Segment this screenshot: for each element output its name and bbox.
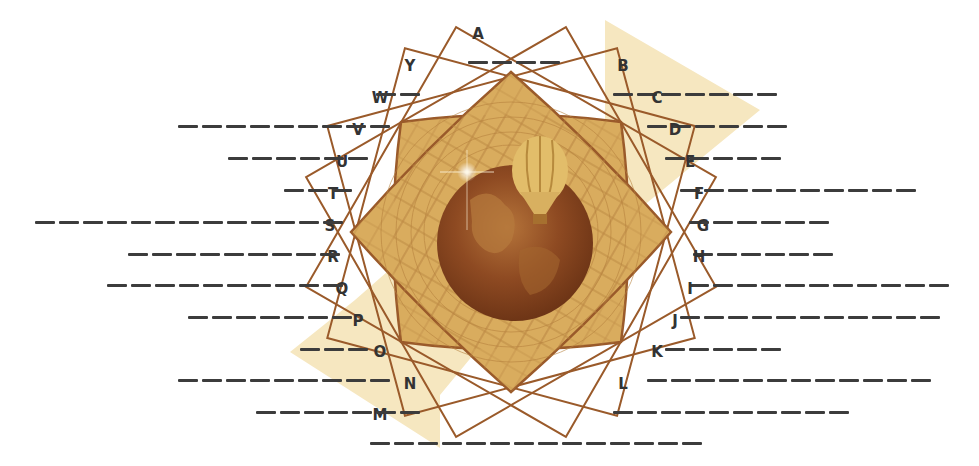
letter-slot[interactable] (400, 411, 420, 414)
letter-slots[interactable] (689, 284, 949, 287)
letter-slot[interactable] (227, 284, 247, 287)
letter-slot[interactable] (514, 442, 534, 445)
letter-slots[interactable] (178, 125, 390, 128)
letter-slot[interactable] (468, 61, 488, 64)
letter-slot[interactable] (131, 221, 151, 224)
letter-slot[interactable] (256, 411, 276, 414)
letter-slot[interactable] (839, 379, 859, 382)
letter-slot[interactable] (920, 316, 940, 319)
letter-slot[interactable] (324, 348, 344, 351)
letter-slot[interactable] (757, 411, 777, 414)
letter-slot[interactable] (709, 93, 729, 96)
letter-slot[interactable] (767, 125, 787, 128)
letter-slot[interactable] (107, 221, 127, 224)
letter-slot[interactable] (155, 221, 175, 224)
letter-slot[interactable] (741, 253, 761, 256)
letter-slot[interactable] (492, 61, 512, 64)
letter-slot[interactable] (757, 93, 777, 96)
letter-slot[interactable] (800, 189, 820, 192)
letter-slot[interactable] (152, 253, 172, 256)
letter-slot[interactable] (737, 348, 757, 351)
letter-slots[interactable] (300, 348, 368, 351)
letter-slot[interactable] (251, 221, 271, 224)
letter-slot[interactable] (400, 93, 420, 96)
letter-slot[interactable] (328, 411, 348, 414)
answer-blank-t[interactable]: T (35, 204, 343, 224)
answer-blank-b[interactable]: B (613, 76, 777, 96)
letter-slot[interactable] (276, 157, 296, 160)
letter-slot[interactable] (809, 284, 829, 287)
letter-slots[interactable] (468, 61, 560, 64)
letter-slot[interactable] (274, 379, 294, 382)
letter-slots[interactable] (613, 411, 849, 414)
letter-slot[interactable] (776, 189, 796, 192)
answer-blank-k[interactable]: K (647, 362, 931, 382)
letter-slot[interactable] (800, 316, 820, 319)
letter-slot[interactable] (761, 221, 781, 224)
letter-slot[interactable] (833, 284, 853, 287)
letter-slot[interactable] (346, 125, 366, 128)
letter-slot[interactable] (613, 411, 633, 414)
letter-slot[interactable] (733, 93, 753, 96)
letter-slot[interactable] (352, 411, 372, 414)
letter-slot[interactable] (743, 379, 763, 382)
letter-slot[interactable] (203, 221, 223, 224)
letter-slot[interactable] (665, 348, 685, 351)
letter-slot[interactable] (516, 61, 536, 64)
letter-slot[interactable] (179, 284, 199, 287)
letter-slot[interactable] (610, 442, 630, 445)
answer-blank-w[interactable]: W (178, 108, 390, 128)
letter-slot[interactable] (376, 411, 396, 414)
letter-slot[interactable] (872, 189, 892, 192)
letter-slots[interactable] (284, 189, 352, 192)
answer-blank-u[interactable]: U (284, 172, 352, 192)
letter-slot[interactable] (713, 221, 733, 224)
letter-slot[interactable] (562, 442, 582, 445)
answer-blank-r[interactable]: R (107, 267, 343, 287)
letter-slot[interactable] (275, 221, 295, 224)
letter-slots[interactable] (613, 93, 777, 96)
letter-slot[interactable] (647, 125, 667, 128)
letter-slot[interactable] (713, 284, 733, 287)
letter-slot[interactable] (304, 411, 324, 414)
letter-slot[interactable] (896, 316, 916, 319)
letter-slot[interactable] (155, 284, 175, 287)
letter-slot[interactable] (202, 125, 222, 128)
answer-blank-a[interactable]: A (468, 44, 560, 64)
letter-slot[interactable] (300, 348, 320, 351)
letter-slot[interactable] (743, 125, 763, 128)
letter-slots[interactable] (693, 253, 833, 256)
letter-slot[interactable] (284, 316, 304, 319)
letter-slot[interactable] (226, 379, 246, 382)
letter-slot[interactable] (332, 316, 352, 319)
letter-slot[interactable] (737, 221, 757, 224)
letter-slot[interactable] (704, 316, 724, 319)
letter-slots[interactable] (256, 411, 420, 414)
letter-slot[interactable] (815, 379, 835, 382)
letter-slot[interactable] (767, 379, 787, 382)
letter-slot[interactable] (284, 189, 304, 192)
answer-blank-m[interactable]: M (370, 425, 702, 445)
letter-slot[interactable] (848, 316, 868, 319)
letter-slot[interactable] (299, 221, 319, 224)
letter-slot[interactable] (176, 253, 196, 256)
letter-slot[interactable] (418, 442, 438, 445)
letter-slot[interactable] (613, 93, 633, 96)
letter-slot[interactable] (785, 284, 805, 287)
letter-slot[interactable] (809, 221, 829, 224)
letter-slot[interactable] (224, 253, 244, 256)
letter-slot[interactable] (296, 253, 316, 256)
answer-blank-y[interactable]: Y (376, 76, 420, 96)
letter-slot[interactable] (83, 221, 103, 224)
answer-blank-l[interactable]: L (613, 394, 849, 414)
answer-blank-i[interactable]: I (680, 299, 940, 319)
letter-slot[interactable] (308, 189, 328, 192)
letter-slot[interactable] (805, 411, 825, 414)
letter-slot[interactable] (250, 125, 270, 128)
letter-slot[interactable] (226, 125, 246, 128)
letter-slot[interactable] (320, 253, 340, 256)
letter-slot[interactable] (308, 316, 328, 319)
letter-slot[interactable] (586, 442, 606, 445)
letter-slot[interactable] (857, 284, 877, 287)
letter-slots[interactable] (376, 93, 420, 96)
